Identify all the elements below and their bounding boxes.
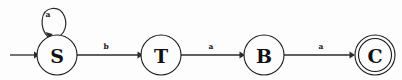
state-node-s[interactable]: S [37,35,77,75]
transition-s-to-s-self-loop: a [42,8,66,38]
state-label-s: S [50,45,64,67]
transition-label-b-c: a [319,42,324,51]
state-node-c[interactable]: C [355,35,395,75]
transition-b-to-c: a [284,42,355,59]
transition-arrow-head-b-c [350,52,356,59]
start-arrow [10,52,40,59]
state-label-b: B [256,45,272,67]
state-label-t: T [154,45,168,67]
transition-label-s-s: a [46,10,51,19]
transition-label-s-t: b [103,42,108,51]
transition-t-to-b: a [181,42,245,59]
state-label-c: C [367,45,382,67]
automaton-svg: a b a a S T [0,0,402,80]
transition-label-t-b: a [209,42,214,51]
state-node-b[interactable]: B [244,35,284,75]
state-node-t[interactable]: T [141,35,181,75]
transition-s-to-t: b [77,42,143,59]
automaton-diagram-canvas: a b a a S T [0,0,402,80]
